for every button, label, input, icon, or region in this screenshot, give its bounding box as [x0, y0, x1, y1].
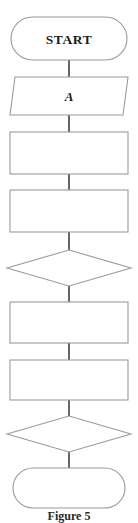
- terminator-start-label: START: [46, 32, 93, 47]
- decision-diamond-2-shape: [7, 416, 131, 452]
- process-box-4: [10, 360, 128, 400]
- process-box-3: [10, 302, 128, 343]
- process-box-1-shape: [10, 132, 128, 174]
- io-parallelogram-a-label: A: [64, 89, 74, 104]
- process-box-3-shape: [10, 302, 128, 343]
- process-box-4-shape: [10, 360, 128, 400]
- process-box-2-shape: [10, 190, 128, 232]
- flowchart-diagram: START A: [0, 0, 138, 523]
- decision-diamond-2: [7, 416, 131, 452]
- terminator-start: START: [11, 17, 127, 60]
- process-box-2: [10, 190, 128, 232]
- decision-diamond-1-shape: [7, 250, 131, 286]
- process-box-1: [10, 132, 128, 174]
- terminator-end: [13, 468, 125, 508]
- io-parallelogram-a: A: [10, 77, 128, 115]
- terminator-end-shape: [13, 468, 125, 508]
- decision-diamond-1: [7, 250, 131, 286]
- figure-caption: Figure 5: [0, 509, 138, 523]
